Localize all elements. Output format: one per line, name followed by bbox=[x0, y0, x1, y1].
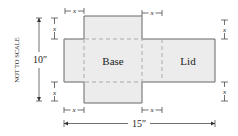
box-net-diagram: Base Lid NOT TO SCALE 10″ x x x bbox=[0, 0, 238, 136]
x-dim-bottom-left: x bbox=[64, 105, 84, 114]
base-label: Base bbox=[102, 55, 124, 67]
x-dim-right-bottom: x bbox=[221, 82, 228, 101]
width-label: 15″ bbox=[132, 118, 146, 129]
lid-label: Lid bbox=[180, 55, 196, 67]
x-dim-top-right: x bbox=[142, 8, 162, 17]
x-dim-top-left: x bbox=[65, 6, 84, 15]
x-dim-left-top: x bbox=[51, 18, 58, 39]
height-label: 10″ bbox=[33, 54, 47, 65]
not-to-scale-label: NOT TO SCALE bbox=[13, 37, 20, 83]
x-dim-right-top: x bbox=[221, 20, 228, 39]
x-dim-left-bottom: x bbox=[51, 82, 58, 101]
height-dimension: 10″ bbox=[32, 18, 48, 101]
x-dim-bottom-right: x bbox=[142, 105, 162, 114]
width-dimension: 15″ bbox=[64, 118, 215, 129]
